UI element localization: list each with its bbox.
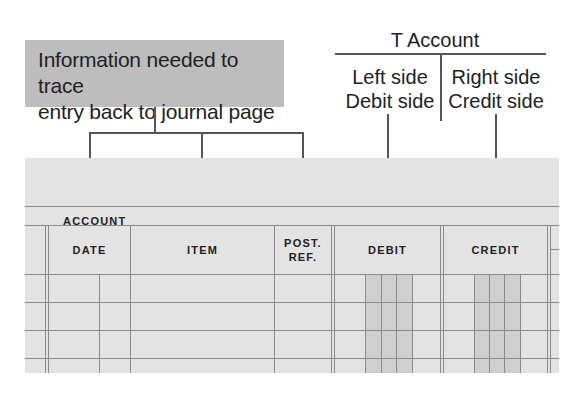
rule <box>412 274 413 373</box>
column-header-item: ITEM <box>131 243 274 257</box>
rule <box>381 274 382 373</box>
callout-line-2: entry back to journal page <box>38 99 284 125</box>
rule <box>504 274 505 373</box>
rule <box>25 225 559 226</box>
rule <box>45 225 46 373</box>
rule <box>520 274 521 373</box>
rule <box>25 302 559 303</box>
t-account-right-side: Right side Credit side <box>444 65 548 113</box>
ledger-form: ACCOUNT DATE ITEM POST. REF. DEBIT CREDI… <box>25 158 559 373</box>
trace-info-callout: Information needed to trace entry back t… <box>25 40 284 107</box>
rule <box>25 274 559 275</box>
rule <box>99 274 100 373</box>
rule <box>25 358 559 359</box>
rule <box>550 249 559 250</box>
column-header-post-ref: POST. REF. <box>275 236 331 264</box>
callout-line-1: Information needed to trace <box>38 47 284 99</box>
callout-stem <box>154 107 156 134</box>
rule <box>25 330 559 331</box>
column-header-debit: DEBIT <box>335 243 440 257</box>
rule <box>550 225 551 373</box>
column-header-credit: CREDIT <box>444 243 547 257</box>
rule <box>440 225 441 373</box>
rule <box>474 274 475 373</box>
rule <box>365 274 366 373</box>
t-account-divider <box>440 55 442 121</box>
rule <box>489 274 490 373</box>
rule <box>25 206 559 207</box>
t-account-left-side: Left side Debit side <box>340 65 440 113</box>
callout-connector <box>89 132 304 134</box>
rule <box>396 274 397 373</box>
rule <box>331 225 332 373</box>
column-header-date: DATE <box>49 243 130 257</box>
t-account-title: T Account <box>335 28 535 52</box>
rule <box>547 225 548 373</box>
